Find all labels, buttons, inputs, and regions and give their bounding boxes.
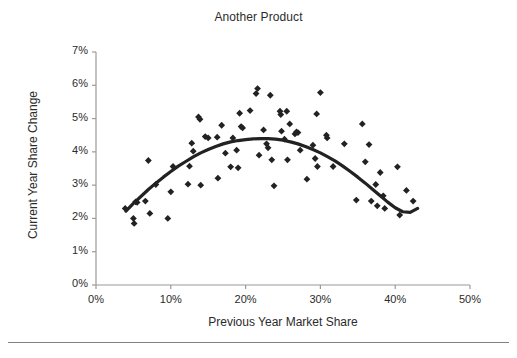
data-point-marker [353, 197, 360, 204]
data-point-marker [197, 182, 204, 189]
data-point-marker [188, 140, 195, 147]
data-point-marker [341, 140, 348, 147]
data-point-marker [410, 198, 417, 205]
bottom-divider [8, 342, 509, 343]
data-point-marker [271, 182, 278, 189]
y-axis-tick-label: 5% [48, 111, 88, 123]
data-point-marker [227, 163, 234, 170]
data-point-marker [374, 202, 381, 209]
data-point-marker [297, 147, 304, 154]
data-point-marker [330, 163, 337, 170]
data-point-marker [304, 176, 311, 183]
y-axis-tick-label: 7% [48, 44, 88, 56]
data-point-marker [267, 92, 274, 99]
data-point-marker [145, 157, 152, 164]
x-axis-tick-label: 40% [372, 293, 418, 305]
data-point-marker [283, 108, 290, 115]
data-point-marker [167, 188, 174, 195]
data-point-marker [381, 205, 388, 212]
data-point-marker [236, 110, 243, 117]
data-point-marker [235, 164, 242, 171]
data-point-marker [362, 158, 369, 165]
x-axis-tick-label: 20% [223, 293, 269, 305]
data-point-marker [247, 107, 254, 114]
data-point-marker [317, 89, 324, 96]
data-point-marker [260, 126, 267, 133]
y-axis-title: Current Year Share Change [26, 55, 40, 275]
data-point-marker [185, 181, 192, 188]
data-points [122, 85, 417, 227]
data-point-marker [253, 90, 260, 97]
data-point-marker [146, 210, 153, 217]
data-point-marker [403, 187, 410, 194]
data-point-marker [372, 181, 379, 188]
data-point-marker [394, 163, 401, 170]
data-point-marker [313, 111, 320, 118]
data-point-marker [377, 169, 384, 176]
data-point-marker [368, 198, 375, 205]
data-point-marker [164, 215, 171, 222]
data-point-marker [286, 120, 293, 127]
x-axis-tick-label: 0% [73, 293, 119, 305]
data-point-marker [268, 156, 275, 163]
x-axis-tick-label: 10% [148, 293, 194, 305]
y-axis-tick-label: 6% [48, 77, 88, 89]
axis-lines [96, 52, 470, 285]
data-point-marker [214, 134, 221, 141]
data-point-marker [222, 150, 229, 157]
data-point-marker [142, 198, 149, 205]
y-axis-tick-label: 2% [48, 210, 88, 222]
y-axis-tick-label: 1% [48, 244, 88, 256]
y-axis-tick-label: 3% [48, 177, 88, 189]
data-point-marker [256, 152, 263, 159]
data-point-marker [359, 120, 366, 127]
data-point-marker [312, 155, 319, 162]
data-point-marker [233, 147, 240, 154]
data-point-marker [215, 175, 222, 182]
y-axis-tick-label: 0% [48, 277, 88, 289]
data-point-marker [278, 128, 285, 135]
x-axis-tick-label: 50% [447, 293, 493, 305]
data-point-marker [190, 148, 197, 155]
x-axis-title: Previous Year Market Share [96, 315, 470, 329]
x-axis-tick-label: 30% [297, 293, 343, 305]
data-point-marker [218, 122, 225, 129]
data-point-marker [284, 156, 291, 163]
y-axis-tick-label: 4% [48, 144, 88, 156]
data-point-marker [366, 141, 373, 148]
chart-container: Another Product Current Year Share Chang… [0, 0, 517, 358]
data-point-marker [314, 163, 321, 170]
data-point-marker [254, 85, 261, 92]
data-point-marker [131, 220, 138, 227]
data-point-marker [186, 163, 193, 170]
